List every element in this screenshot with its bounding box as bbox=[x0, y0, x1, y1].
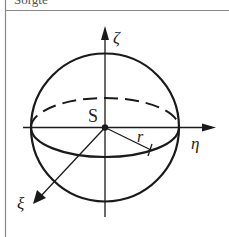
radius-line bbox=[105, 128, 151, 151]
diagram-frame: Sorgte ζ η ξ S r bbox=[0, 0, 229, 237]
radius-label: r bbox=[137, 128, 144, 145]
header-text: Sorgte bbox=[14, 0, 48, 8]
center-point bbox=[102, 124, 108, 130]
xi-label: ξ bbox=[17, 194, 25, 213]
zeta-label: ζ bbox=[113, 28, 121, 47]
zeta-arrowhead-icon bbox=[101, 26, 109, 40]
sphere-diagram: ζ η ξ S r bbox=[0, 0, 229, 237]
xi-axis bbox=[40, 128, 105, 198]
eta-label: η bbox=[191, 134, 199, 153]
center-label: S bbox=[88, 106, 98, 126]
eta-arrowhead-icon bbox=[202, 124, 216, 132]
